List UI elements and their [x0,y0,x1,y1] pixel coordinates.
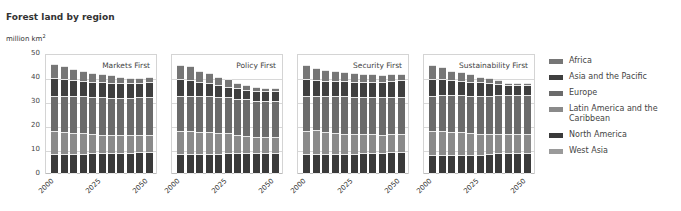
bar-2050 [524,83,531,174]
bar-segment-latin-america-and-the-caribbean [477,134,484,155]
legend-label: West Asia [569,146,608,156]
bar-segment-asia-and-the-pacific [272,91,279,101]
bar-segment-africa [341,72,348,82]
bar-segment-africa [89,73,96,82]
bar-group [50,55,152,174]
bar-segment-north-america [61,154,68,173]
bar-segment-europe [206,96,213,132]
bar-segment-north-america [495,153,502,173]
panel-security-first: Security First [297,54,409,174]
bar-segment-west-asia [146,173,153,174]
bar-segment-north-america [272,153,279,173]
bar-segment-asia-and-the-pacific [146,82,153,98]
bar-segment-north-america [262,153,269,173]
bar-segment-latin-america-and-the-caribbean [332,133,339,154]
bar-segment-west-asia [108,173,115,174]
bar-segment-north-america [524,153,531,173]
bar-segment-latin-america-and-the-caribbean [341,134,348,154]
bar-segment-latin-america-and-the-caribbean [439,131,446,155]
bar-2050 [398,74,405,174]
x-tick-label: 2000 [163,177,181,195]
bar-segment-asia-and-the-pacific [117,83,124,99]
bar-segment-europe [243,99,250,135]
y-tick-label: 20 [26,121,40,129]
bar-segment-west-asia [439,173,446,174]
bar-segment-europe [146,97,153,134]
y-tick-label: 30 [26,97,40,105]
bar-segment-europe [99,97,106,134]
bar-segment-asia-and-the-pacific [351,82,358,97]
bar-segment-west-asia [70,173,77,174]
bar-2025 [99,74,106,174]
chart-title: Forest land by region [6,12,115,22]
bar-segment-north-america [486,154,493,173]
legend-item-north-america: North America [549,130,674,140]
bar-2040 [127,78,134,174]
bar-segment-north-america [369,153,376,173]
bar-segment-europe [467,96,474,133]
bar-2010 [448,71,455,174]
unit-superscript: 2 [42,33,45,39]
bar-segment-north-america [477,155,484,173]
bar-segment-latin-america-and-the-caribbean [388,134,395,152]
bar-segment-asia-and-the-pacific [505,85,512,95]
bar-segment-europe [313,96,320,131]
legend-label: Latin America and the Caribbean [569,104,674,124]
bar-2005 [61,66,68,174]
bar-segment-latin-america-and-the-caribbean [303,131,310,154]
bar-2045 [136,78,143,174]
bar-segment-west-asia [429,173,436,174]
bar-segment-africa [448,71,455,81]
bar-segment-west-asia [341,173,348,174]
bar-segment-latin-america-and-the-caribbean [70,133,77,154]
bar-2000 [177,65,184,174]
y-tick-label: 10 [26,145,40,153]
bar-2005 [187,66,194,174]
legend-swatch [549,75,563,80]
bar-segment-europe [514,95,521,134]
bar-segment-west-asia [369,173,376,174]
bar-segment-west-asia [196,173,203,174]
bar-segment-west-asia [272,173,279,174]
bar-segment-europe [303,96,310,131]
bar-segment-latin-america-and-the-caribbean [117,135,124,153]
panel-policy-first: Policy First [171,54,283,174]
bar-segment-europe [369,97,376,134]
bar-segment-latin-america-and-the-caribbean [253,137,260,153]
bar-segment-west-asia [177,173,184,174]
bar-2040 [253,87,260,174]
bar-segment-latin-america-and-the-caribbean [80,133,87,153]
bar-segment-europe [225,97,232,133]
bar-2010 [322,70,329,174]
bar-segment-asia-and-the-pacific [303,79,310,96]
bar-segment-europe [215,97,222,133]
unit-label: million km [6,35,42,43]
bar-segment-latin-america-and-the-caribbean [429,131,436,154]
bar-segment-africa [458,72,465,81]
bar-segment-north-america [215,154,222,173]
legend-swatch [549,133,563,138]
legend-item-africa: Africa [549,56,674,66]
bar-segment-north-america [351,154,358,173]
bar-segment-north-america [234,153,241,173]
bar-segment-europe [458,95,465,132]
bar-segment-west-asia [61,173,68,174]
x-tick-label: 2000 [37,177,55,195]
bar-segment-north-america [89,153,96,173]
y-axis-unit: million km2 [6,33,46,43]
bar-segment-europe [439,95,446,131]
bar-segment-north-america [206,154,213,173]
x-tick-label: 2000 [415,177,433,195]
bar-2050 [146,77,153,174]
bar-segment-europe [388,97,395,134]
bar-segment-north-america [332,154,339,173]
bar-segment-africa [379,75,386,82]
bar-segment-west-asia [215,173,222,174]
bar-segment-latin-america-and-the-caribbean [225,133,232,153]
bar-segment-europe [505,95,512,134]
bar-2035 [117,77,124,174]
bar-segment-west-asia [388,173,395,174]
bar-segment-latin-america-and-the-caribbean [177,131,184,154]
bar-segment-asia-and-the-pacific [341,81,348,96]
bar-segment-west-asia [262,173,269,174]
